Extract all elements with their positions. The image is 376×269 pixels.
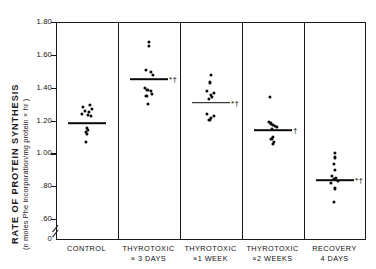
x-label-line1: THYROTOXIC bbox=[242, 244, 304, 255]
x-label-line2: 4 DAYS bbox=[304, 254, 366, 265]
y-axis-tick-label: 1.60 bbox=[18, 50, 52, 59]
significance-marker: † bbox=[293, 126, 298, 135]
mean-line bbox=[316, 179, 354, 181]
y-axis-tick-label: 1.20 bbox=[18, 116, 52, 125]
x-axis-group-label: THYROTOXIC×2 WEEKS bbox=[242, 244, 304, 265]
significance-marker: *† bbox=[169, 75, 177, 84]
mean-line bbox=[192, 102, 230, 104]
x-label-line2: ×1 WEEK bbox=[180, 254, 242, 265]
x-label-line1: THYROTOXIC bbox=[180, 244, 242, 255]
panel-separator bbox=[118, 22, 119, 240]
x-label-line2: × 3 DAYS bbox=[118, 254, 180, 265]
x-axis-group-label: THYROTOXIC× 3 DAYS bbox=[118, 244, 180, 265]
plot-frame bbox=[56, 22, 366, 240]
y-axis-tick-label: 1.00 bbox=[18, 148, 52, 157]
y-axis-tick-label: .80 bbox=[18, 181, 52, 190]
x-label-line1: CONTROL bbox=[56, 244, 118, 255]
panel-separator bbox=[304, 22, 305, 240]
x-label-line2: ×2 WEEKS bbox=[242, 254, 304, 265]
x-label-line1: THYROTOXIC bbox=[118, 244, 180, 255]
panel-separator bbox=[242, 22, 243, 240]
x-axis-group-label: RECOVERY4 DAYS bbox=[304, 244, 366, 265]
y-axis-tick-label: 1.80 bbox=[18, 17, 52, 26]
significance-marker: *† bbox=[355, 175, 363, 184]
y-axis-title-group: RATE OF PROTEIN SYNTHESIS (n moles Phe i… bbox=[0, 0, 34, 250]
x-axis-group-label: THYROTOXIC×1 WEEK bbox=[180, 244, 242, 265]
y-axis-tick-label: 1.40 bbox=[18, 83, 52, 92]
significance-marker: *† bbox=[231, 98, 239, 107]
y-axis-tick-label: .60 bbox=[18, 214, 52, 223]
mean-line bbox=[254, 129, 292, 131]
y-axis-origin-label: 0 bbox=[18, 234, 52, 243]
panel-separator bbox=[180, 22, 181, 240]
mean-line bbox=[130, 78, 168, 80]
mean-line bbox=[68, 122, 106, 124]
x-axis-group-label: CONTROL bbox=[56, 244, 118, 255]
x-label-line1: RECOVERY bbox=[304, 244, 366, 255]
figure-protein-synthesis: RATE OF PROTEIN SYNTHESIS (n moles Phe i… bbox=[0, 0, 376, 269]
